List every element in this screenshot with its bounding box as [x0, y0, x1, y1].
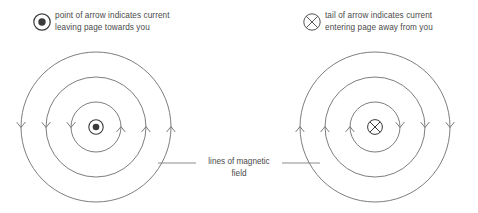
legend-current-into-page-icon	[304, 14, 320, 30]
current-out-of-page-icon	[89, 120, 103, 134]
current-into-page-panel	[296, 52, 454, 202]
legend-current-out-of-page-icon	[34, 14, 50, 30]
legend-caption-right: tail of arrow indicates current entering…	[325, 10, 433, 33]
field-lines-label: lines of magnetic field	[196, 156, 282, 179]
legend-caption-left-line1: point of arrow indicates current	[55, 10, 170, 22]
current-into-page-icon	[368, 120, 383, 135]
legend-caption-right-line1: tail of arrow indicates current	[325, 10, 433, 22]
magnetic-field-diagram: point of arrow indicates current leaving…	[0, 0, 478, 213]
legend-caption-left: point of arrow indicates current leaving…	[55, 10, 170, 33]
legend-caption-left-line2: leaving page towards you	[55, 22, 170, 34]
legend-caption-right-line2: entering page away from you	[325, 22, 433, 34]
current-out-of-page-panel	[17, 52, 175, 202]
